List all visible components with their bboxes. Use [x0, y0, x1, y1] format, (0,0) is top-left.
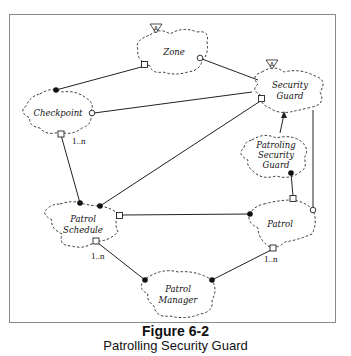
patrol-schedule-label-line1: Patrol — [69, 214, 96, 224]
svg-text:A: A — [154, 25, 159, 32]
zone-square-end — [142, 62, 148, 68]
rel-security-guard-patrol-schedule — [100, 100, 262, 206]
patrol-dot-end — [247, 211, 253, 217]
rel-checkpoint-security-guard — [94, 92, 252, 113]
zone-circle-end — [197, 55, 203, 61]
psg-label-line3: Guard — [263, 160, 290, 170]
checkpoint-label: Checkpoint — [33, 108, 83, 118]
rel-zone-security-guard — [202, 59, 258, 80]
rel-zone-checkpoint — [56, 66, 145, 90]
security-guard-square-end — [259, 96, 265, 102]
security-guard-label-line2: Guard — [277, 91, 304, 101]
checkpoint-circle-end — [89, 110, 95, 116]
security-guard-label-line1: Security — [272, 80, 308, 90]
patrol-schedule-square-end-bottom — [93, 238, 99, 244]
patrol-manager-dot-end-right — [209, 277, 215, 283]
patrol-manager-dot-end-left — [142, 277, 148, 283]
svg-text:A: A — [270, 61, 275, 68]
checkpoint-square-end — [58, 131, 64, 137]
psg-label-line1: Patroling — [255, 140, 296, 150]
patrol-schedule-square-end-right — [117, 213, 123, 219]
psg-label-line2: Security — [258, 150, 294, 160]
er-diagram: A A — [0, 0, 351, 356]
zone-abstract-marker: A — [150, 24, 162, 33]
figure-number: Figure 6-2 — [0, 323, 351, 339]
patrol-schedule-label-line2: Schedule — [63, 225, 103, 235]
patrol-schedule-dot-end-right — [97, 203, 103, 209]
zone-label: Zone — [162, 47, 185, 57]
patrol-square-end-bottom — [270, 245, 276, 251]
patrol-manager-label-line1: Patrol — [164, 284, 191, 294]
patrol-circle-end — [310, 207, 316, 213]
rel-patrol-schedule-patrol-manager — [98, 243, 145, 280]
patrol-label: Patrol — [266, 219, 293, 229]
checkpoint-dot-end — [53, 87, 59, 93]
patrol-square-end-top — [290, 196, 296, 202]
rel-patrol-schedule-patrol — [122, 214, 250, 215]
patrol-schedule-dot-end-left — [77, 200, 83, 206]
patrol-manager-label-line2: Manager — [158, 295, 199, 305]
checkpoint-multiplicity: 1..n — [72, 136, 86, 146]
patrol-schedule-multiplicity: 1..n — [91, 251, 105, 261]
figure-title: Patrolling Security Guard — [0, 338, 351, 353]
security-guard-abstract-marker: A — [266, 60, 278, 69]
psg-dot-end — [288, 170, 294, 176]
patrol-multiplicity: 1..n — [264, 254, 278, 264]
